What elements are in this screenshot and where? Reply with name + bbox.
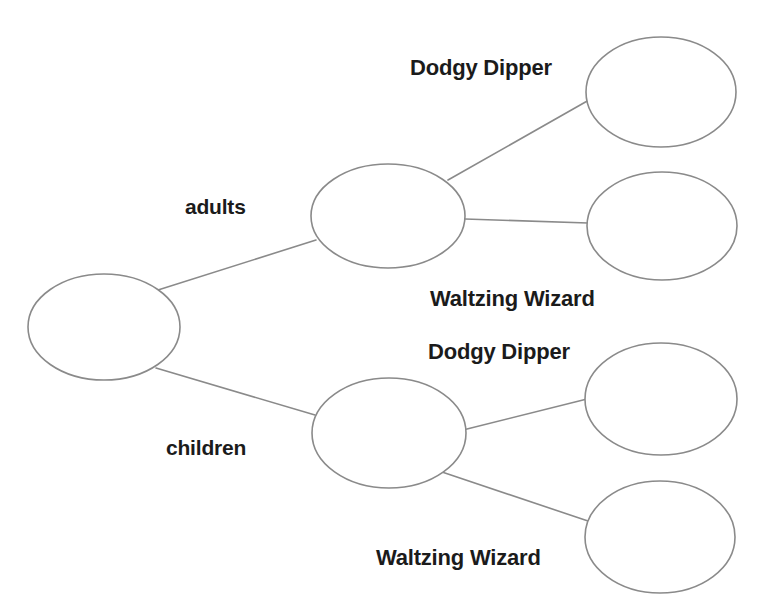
node-adults-waltzing-wizard[interactable] <box>587 172 737 280</box>
branch-adults-to-waltzing-wizard <box>465 219 588 223</box>
node-children[interactable] <box>312 378 466 488</box>
node-root[interactable] <box>28 274 180 380</box>
edge-label-adults: adults <box>185 196 246 217</box>
edge-label-children: children <box>166 437 246 458</box>
edge-label-waltzing-wizard-adults: Waltzing Wizard <box>430 288 595 310</box>
branch-root-to-children <box>156 368 315 415</box>
node-adults[interactable] <box>311 164 465 268</box>
tree-diagram-graphics <box>0 0 759 611</box>
edge-label-dodgy-dipper-adults: Dodgy Dipper <box>410 57 552 79</box>
cropped-top-text-strip <box>0 0 759 5</box>
tree-diagram-canvas: Dodgy Dipper adults Waltzing Wizard Dodg… <box>0 0 759 611</box>
branch-children-to-dodgy-dipper <box>463 399 587 430</box>
edge-label-dodgy-dipper-children: Dodgy Dipper <box>428 341 570 363</box>
node-children-dodgy-dipper[interactable] <box>585 343 737 455</box>
branch-adults-to-dodgy-dipper <box>448 100 589 180</box>
branch-children-to-waltzing-wizard <box>442 472 591 522</box>
branch-root-to-adults <box>158 240 316 290</box>
node-children-waltzing-wizard[interactable] <box>585 481 735 593</box>
edge-label-waltzing-wizard-children: Waltzing Wizard <box>376 547 541 569</box>
node-adults-dodgy-dipper[interactable] <box>586 37 736 147</box>
